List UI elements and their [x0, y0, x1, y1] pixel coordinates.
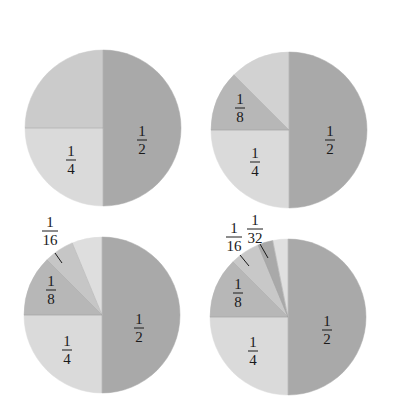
fraction-label: 14	[62, 333, 72, 367]
fraction-label: 14	[66, 143, 76, 177]
fraction-label: 14	[248, 334, 258, 368]
fraction-label: 12	[137, 123, 147, 157]
fraction-numerator: 1	[230, 220, 238, 236]
pie-chart-sixteenths: 121418116	[24, 214, 180, 393]
pie-chart-halves: 1214	[25, 50, 181, 206]
pie-chart-thirty-seconds: 121418116132	[210, 212, 366, 395]
fraction-numerator: 1	[46, 214, 54, 230]
fraction-numerator: 1	[251, 212, 259, 228]
fraction-denominator: 2	[138, 141, 146, 157]
pie-slice-1-over-4	[211, 130, 289, 208]
fraction-denominator: 8	[236, 109, 244, 125]
fraction-numerator: 1	[63, 333, 71, 349]
fraction-denominator: 8	[47, 291, 55, 307]
fraction-label: 18	[235, 91, 245, 125]
fraction-numerator: 1	[234, 276, 242, 292]
fraction-denominator: 2	[135, 329, 143, 345]
fraction-label: 18	[233, 276, 243, 310]
fraction-label: 18	[46, 273, 56, 307]
pie-slice-remainder	[25, 50, 103, 128]
fraction-denominator: 8	[234, 294, 242, 310]
fraction-numerator: 1	[236, 91, 244, 107]
fraction-denominator: 4	[63, 351, 71, 367]
fraction-label: 14	[250, 145, 260, 179]
pie-chart-eighths: 121418	[211, 52, 367, 208]
fraction-denominator: 4	[251, 163, 259, 179]
fraction-denominator: 4	[249, 352, 257, 368]
fraction-denominator: 2	[323, 331, 331, 347]
fraction-label: 12	[325, 123, 335, 157]
fraction-numerator: 1	[135, 311, 143, 327]
fraction-denominator: 4	[67, 161, 75, 177]
fraction-label: 12	[134, 311, 144, 345]
fraction-numerator: 1	[47, 273, 55, 289]
fraction-denominator: 16	[227, 238, 243, 254]
fraction-numerator: 1	[67, 143, 75, 159]
fraction-denominator: 2	[326, 141, 334, 157]
fraction-denominator: 32	[248, 230, 263, 246]
fraction-label: 12	[322, 313, 332, 347]
fraction-denominator: 16	[43, 232, 59, 248]
fraction-numerator: 1	[323, 313, 331, 329]
pie-slice-1-over-4	[25, 128, 103, 206]
pie-chart-figure: 1214 121418 121418116 121418116132	[0, 0, 399, 396]
fraction-numerator: 1	[251, 145, 259, 161]
fraction-numerator: 1	[138, 123, 146, 139]
fraction-numerator: 1	[326, 123, 334, 139]
fraction-numerator: 1	[249, 334, 257, 350]
